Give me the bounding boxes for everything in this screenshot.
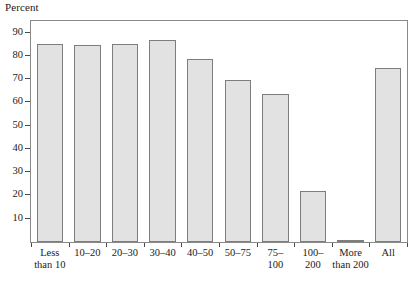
y-tick-label: 60: [13, 95, 24, 107]
y-tick-mark: [25, 125, 30, 126]
bar: [187, 59, 213, 242]
x-tick-mark: [407, 243, 408, 247]
bar-slot: [300, 21, 326, 242]
plot-area: [31, 21, 407, 242]
y-tick-label: 50: [13, 119, 24, 131]
bar-slot: [37, 21, 63, 242]
y-tick-label: 80: [13, 49, 24, 61]
y-tick-mark: [25, 171, 30, 172]
chart-axis-title: Percent: [5, 1, 39, 13]
y-tick-label: 10: [13, 212, 24, 224]
bar: [262, 94, 288, 242]
y-tick-label: 30: [13, 165, 24, 177]
y-tick-mark: [25, 32, 30, 33]
bar-slot: [337, 21, 363, 242]
bar: [37, 44, 63, 242]
y-tick-mark: [25, 148, 30, 149]
bar-slot: [375, 21, 401, 242]
y-tick-label: 70: [13, 72, 24, 84]
y-tick-mark: [25, 218, 30, 219]
bar: [300, 191, 326, 242]
y-tick-mark: [25, 194, 30, 195]
bar-slot: [187, 21, 213, 242]
x-tick-label: All: [365, 247, 411, 259]
bar: [112, 44, 138, 242]
bar-slot: [112, 21, 138, 242]
bar-slot: [262, 21, 288, 242]
bar-slot: [225, 21, 251, 242]
bar: [225, 80, 251, 242]
bar-chart: Percent 102030405060708090 Less than 101…: [0, 0, 411, 295]
cropped-caption: [60, 288, 360, 295]
y-tick-mark: [25, 101, 30, 102]
y-tick-mark: [25, 55, 30, 56]
y-tick-label: 90: [13, 26, 24, 38]
bar: [337, 240, 363, 242]
y-axis: 102030405060708090: [0, 20, 30, 243]
y-tick-mark: [25, 78, 30, 79]
bar: [375, 68, 401, 242]
y-tick-label: 40: [13, 142, 24, 154]
bar: [74, 45, 100, 242]
bar: [149, 40, 175, 242]
bar-slot: [74, 21, 100, 242]
bar-slot: [149, 21, 175, 242]
x-axis: Less than 1010–2020–3030–4040–5050–7575–…: [31, 243, 407, 283]
y-tick-label: 20: [13, 188, 24, 200]
